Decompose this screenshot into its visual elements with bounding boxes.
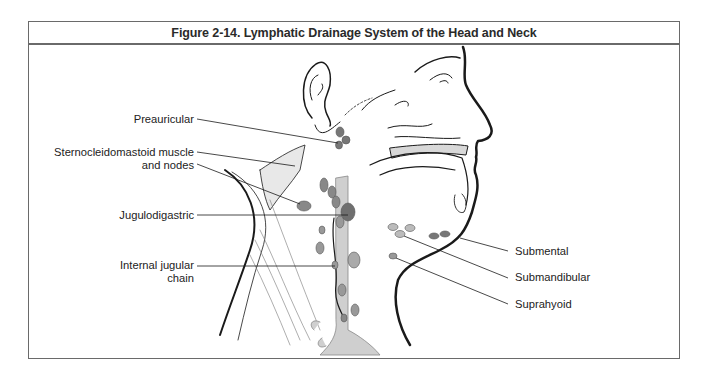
leader-suprahyoid bbox=[396, 258, 508, 304]
face-profile-outline bbox=[396, 47, 492, 345]
ear-inner bbox=[310, 75, 323, 100]
node-chain bbox=[320, 178, 328, 192]
node-chain bbox=[338, 284, 346, 296]
eye bbox=[430, 74, 452, 83]
scm-fibers bbox=[250, 200, 320, 345]
label-internal-jugular: Internal jugular chain bbox=[120, 259, 194, 285]
label-suprahyoid: Suprahyoid bbox=[515, 298, 572, 311]
node-scm bbox=[297, 201, 311, 211]
node-chain bbox=[341, 314, 347, 322]
lymph-nodes bbox=[297, 127, 450, 322]
node-suprahyoid bbox=[389, 253, 397, 259]
node-submandibular bbox=[388, 224, 398, 231]
leader-preauricular bbox=[197, 119, 338, 143]
node-submandibular bbox=[405, 225, 415, 232]
node-chain bbox=[336, 216, 344, 228]
scm-muscle bbox=[260, 145, 305, 210]
label-jugulodigastric: Jugulodigastric bbox=[119, 209, 194, 222]
node-preauricular bbox=[342, 136, 350, 144]
node-submental bbox=[440, 231, 450, 237]
label-sternocleidomastoid: Sternocleidomastoid muscle and nodes bbox=[54, 146, 194, 172]
neck-back-outline bbox=[220, 170, 254, 335]
label-preauricular: Preauricular bbox=[134, 113, 194, 126]
node-chain bbox=[316, 242, 324, 254]
node-submental bbox=[429, 233, 439, 239]
eyebrow bbox=[415, 57, 460, 72]
node-chain bbox=[319, 226, 325, 234]
label-submandibular: Submandibular bbox=[515, 271, 590, 284]
ear-outline bbox=[303, 62, 330, 126]
node-submandibular bbox=[395, 231, 405, 238]
head-neck-illustration bbox=[0, 0, 709, 376]
oral-cavity bbox=[370, 153, 468, 205]
leader-submental bbox=[460, 238, 508, 251]
node-internal-jugular bbox=[332, 261, 338, 269]
tongue-tip bbox=[454, 194, 466, 213]
label-submental: Submental bbox=[515, 245, 569, 258]
node-chain bbox=[348, 252, 360, 268]
vessel-branch bbox=[311, 321, 326, 347]
node-chain bbox=[351, 304, 359, 316]
node-preauricular bbox=[336, 141, 343, 149]
hair-curl bbox=[345, 98, 372, 115]
node-preauricular bbox=[336, 127, 344, 137]
node-chain bbox=[332, 196, 340, 208]
cheek-lines bbox=[362, 90, 460, 138]
leader-submandibular bbox=[404, 236, 508, 278]
